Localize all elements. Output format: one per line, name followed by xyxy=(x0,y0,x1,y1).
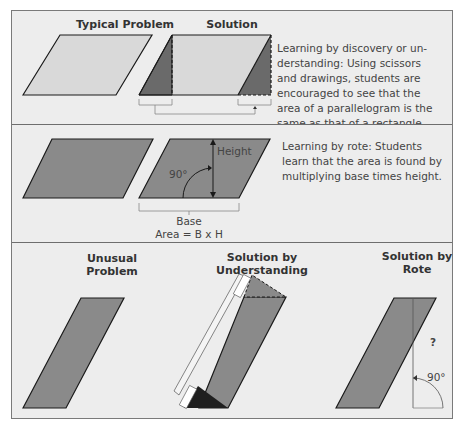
rote-unusual-parallelogram xyxy=(336,298,436,408)
typical-parallelogram xyxy=(23,35,152,95)
rote-parallelogram-left xyxy=(23,139,153,198)
panel-rote: Height 90° Base Area = B x H Learning by… xyxy=(12,125,452,241)
unusual-problem-diagram xyxy=(12,243,452,418)
base-label: Base xyxy=(159,214,219,228)
angle-90-label: 90° xyxy=(169,167,188,181)
understanding-parallelogram xyxy=(199,297,286,408)
panel-discovery: Typical Problem Solution xyxy=(12,11,452,124)
area-formula: Area = B x H xyxy=(149,227,229,241)
unusual-parallelogram xyxy=(23,298,124,408)
diagram-frame: Typical Problem Solution xyxy=(11,10,453,419)
rote-description: Learning by rote: Students learn that th… xyxy=(282,139,452,184)
question-mark: ? xyxy=(430,335,436,349)
panel-unusual: Unusual Problem Solution by Understandin… xyxy=(12,243,452,418)
discovery-description: Learning by discovery or un- derstanding… xyxy=(277,41,447,131)
rote-angle-90-label: 90° xyxy=(427,370,446,384)
height-label: Height xyxy=(217,144,252,158)
